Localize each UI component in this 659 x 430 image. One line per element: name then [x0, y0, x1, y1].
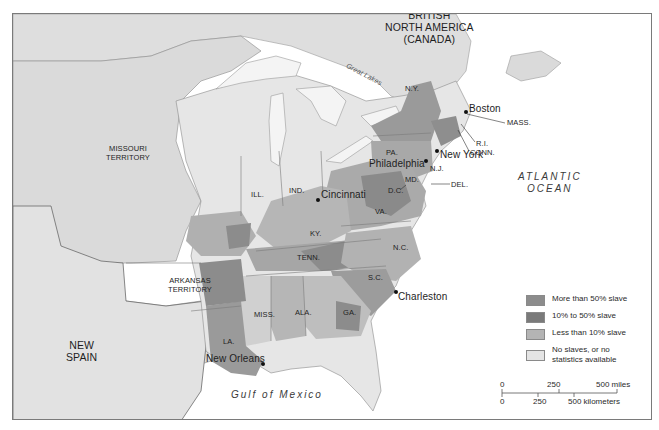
city-boston: Boston: [469, 104, 501, 113]
legend-label: No slaves, or no statistics available: [552, 345, 632, 364]
legend-swatch-under-10: [526, 329, 545, 340]
legend-item: No slaves, or no statistics available: [526, 345, 646, 364]
scale-miles-250: 250: [547, 380, 560, 389]
city-charleston: Charleston: [398, 292, 447, 301]
scale-miles-0: 0: [500, 380, 504, 389]
city-dot-cincinnati: [316, 198, 320, 202]
scale-line: [488, 389, 648, 397]
scale-bar: 0 250 500 miles 0 250 500 kilometers: [488, 380, 648, 410]
scale-km-0: 0: [500, 397, 504, 406]
legend-swatch-over-50: [526, 295, 545, 306]
city-philadelphia: Philadelphia: [369, 159, 425, 168]
city-cincinnati: Cincinnati: [321, 190, 366, 199]
city-new-orleans: New Orleans: [206, 354, 265, 363]
legend-item: More than 50% slave: [526, 294, 646, 306]
scale-km-500: 500 kilometers: [568, 397, 620, 406]
legend-label: 10% to 50% slave: [552, 311, 616, 321]
city-dot-new-york: [435, 149, 439, 153]
legend-item: Less than 10% slave: [526, 328, 646, 340]
legend-swatch-10-to-50: [526, 312, 545, 323]
scale-km-250: 250: [533, 397, 546, 406]
legend-label: Less than 10% slave: [552, 328, 626, 338]
legend: More than 50% slave 10% to 50% slave Les…: [526, 294, 646, 369]
legend-item: 10% to 50% slave: [526, 311, 646, 323]
city-dot-boston: [464, 110, 468, 114]
scale-miles-500: 500 miles: [596, 380, 630, 389]
city-new-york: New York: [440, 150, 483, 159]
legend-swatch-no-slaves: [526, 350, 545, 361]
legend-label: More than 50% slave: [552, 294, 627, 304]
